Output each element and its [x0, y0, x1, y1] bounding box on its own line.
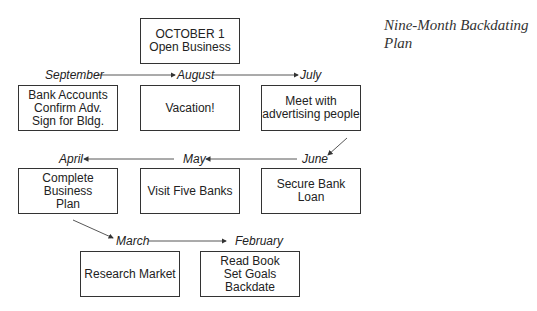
task-august: Vacation! [140, 85, 240, 131]
month-may: May [183, 152, 206, 166]
backdating-diagram: Nine-Month Backdating Plan OCTOBER 1 Ope… [0, 0, 537, 311]
task-may: Visit Five Banks [140, 168, 240, 214]
month-march: March [116, 234, 149, 248]
month-february: February [235, 234, 283, 248]
task-march: Research Market [80, 251, 180, 297]
task-february: Read Book Set Goals Backdate [200, 251, 300, 297]
diagram-title: Nine-Month Backdating Plan [384, 16, 529, 52]
task-june: Secure Bank Loan [261, 168, 361, 214]
month-september: September [45, 68, 104, 82]
month-august: August [177, 68, 214, 82]
task-july: Meet with advertising people [261, 85, 361, 131]
task-september: Bank Accounts Confirm Adv. Sign for Bldg… [18, 85, 118, 131]
month-july: July [300, 68, 321, 82]
month-june: June [302, 152, 328, 166]
task-april: Complete Business Plan [18, 168, 118, 214]
start-box: OCTOBER 1 Open Business [140, 18, 240, 64]
month-april: April [59, 152, 83, 166]
